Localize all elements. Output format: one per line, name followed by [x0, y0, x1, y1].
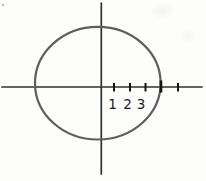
x-axis-tick-label: 2 [123, 96, 132, 112]
coordinate-plane-figure: 1 2 3 [0, 0, 206, 181]
x-axis-tick-label: 1 [108, 96, 117, 112]
figure-canvas: 1 2 3 [0, 0, 206, 181]
circle-curve [35, 27, 161, 140]
x-axis-tick-labels: 1 2 3 [108, 96, 145, 112]
x-axis-tick-label: 3 [137, 96, 146, 112]
